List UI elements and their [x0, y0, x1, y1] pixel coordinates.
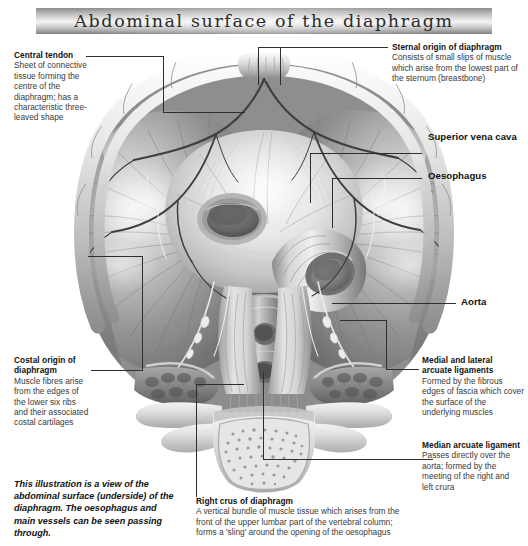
leader-oesophagus-h — [332, 178, 422, 179]
callout-arcuate-ligaments-body: Formed by the fibrous edges of fascia wh… — [422, 376, 524, 418]
leader-arcuate-v — [386, 320, 387, 370]
callout-right-crus-heading: Right crus of diaphragm — [196, 496, 410, 506]
callout-central-tendon-body: Sheet of connective tissue forming the c… — [14, 60, 90, 122]
callout-median-arcuate-ligament-body: Passes directly over the aorta; formed b… — [422, 450, 522, 492]
leader-median-arcuate-h2 — [263, 459, 413, 460]
leader-median-arcuate-v — [263, 372, 264, 460]
callout-central-tendon: Central tendon Sheet of connective tissu… — [14, 50, 90, 123]
leader-sternal-origin-v1 — [280, 47, 281, 85]
callout-sternal-origin-heading: Sternal origin of diaphragm — [392, 42, 522, 52]
leader-right-crus-v — [196, 384, 197, 497]
leader-right-crus-h — [196, 384, 244, 385]
leader-central-tendon-h — [86, 56, 164, 57]
callout-central-tendon-heading: Central tendon — [14, 50, 90, 60]
leader-arcuate-h — [386, 369, 419, 370]
leader-central-tendon-h2 — [163, 112, 245, 113]
leader-central-tendon-v — [163, 56, 164, 113]
callout-costal-origin-body: Muscle fibres arise from the edges of th… — [14, 376, 90, 428]
leader-costal-origin-v — [142, 256, 143, 371]
leader-sternal-origin-h2 — [258, 47, 280, 48]
callout-oesophagus: Oesophagus — [428, 170, 524, 181]
callout-superior-vena-cava: Superior vena cava — [428, 131, 520, 142]
callout-aorta-heading: Aorta — [461, 296, 521, 307]
leader-aorta-h — [332, 303, 456, 304]
callout-arcuate-ligaments: Medial and lateral arcuate ligaments For… — [422, 355, 524, 417]
page-title: Abdominal surface of the diaphragm — [74, 11, 453, 31]
callout-aorta: Aorta — [461, 296, 521, 307]
leader-vena-cava-v — [310, 153, 311, 203]
callout-median-arcuate-ligament-heading: Median arcuate ligament — [422, 440, 522, 450]
callout-costal-origin: Costal origin of diaphragm Muscle fibres… — [14, 355, 90, 428]
callout-sternal-origin-body: Consists of small slips of muscle which … — [392, 52, 522, 83]
callout-sternal-origin: Sternal origin of diaphragm Consists of … — [392, 42, 522, 84]
page-title-banner: Abdominal surface of the diaphragm — [36, 8, 492, 34]
callout-median-arcuate-ligament: Median arcuate ligament Passes directly … — [422, 440, 522, 492]
leader-oesophagus-v — [332, 178, 333, 228]
figure-caption: This illustration is a view of the abdom… — [14, 478, 180, 539]
leader-sternal-origin-v2 — [258, 47, 259, 85]
callout-costal-origin-heading: Costal origin of diaphragm — [14, 355, 90, 376]
leader-vena-cava-h — [310, 153, 422, 154]
leader-costal-origin-h — [91, 370, 143, 371]
callout-arcuate-ligaments-heading: Medial and lateral arcuate ligaments — [422, 355, 524, 376]
callout-right-crus-body: A vertical bundle of muscle tissue which… — [196, 506, 410, 537]
caval-opening — [197, 193, 267, 245]
cortical-rim — [219, 418, 310, 490]
sternal-origin-region — [238, 52, 290, 79]
leader-costal-origin-h2 — [88, 256, 143, 257]
leader-sternal-origin-h — [280, 47, 388, 48]
leader-arcuate-h2 — [340, 320, 387, 321]
callout-right-crus: Right crus of diaphragm A vertical bundl… — [196, 496, 410, 538]
callout-oesophagus-heading: Oesophagus — [428, 170, 524, 181]
callout-superior-vena-cava-heading: Superior vena cava — [428, 131, 520, 142]
